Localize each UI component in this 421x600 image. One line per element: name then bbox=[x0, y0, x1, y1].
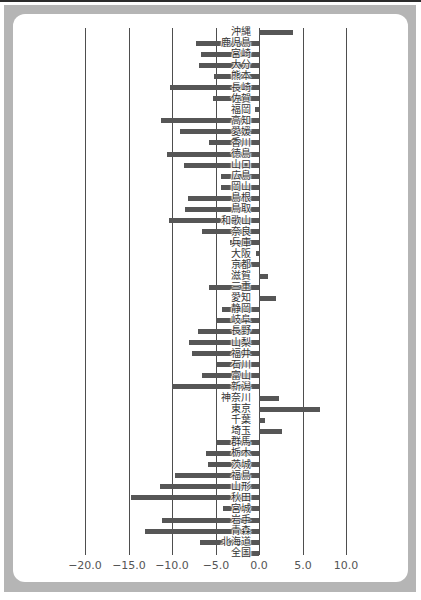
bar bbox=[259, 296, 276, 301]
bar bbox=[259, 274, 268, 279]
bar bbox=[259, 30, 293, 35]
gridline bbox=[346, 28, 347, 555]
bar bbox=[259, 407, 320, 412]
bar bbox=[259, 396, 279, 401]
x-tick-label: 5.0 bbox=[281, 559, 325, 573]
bar bbox=[259, 429, 282, 434]
x-tick-label: −10.0 bbox=[150, 559, 194, 573]
gridline bbox=[303, 28, 304, 555]
bar bbox=[259, 418, 265, 423]
gridline bbox=[172, 28, 173, 555]
x-tick-label: −15.0 bbox=[107, 559, 151, 573]
x-tick-label: 0.0 bbox=[237, 559, 281, 573]
x-tick-label: −20.0 bbox=[63, 559, 107, 573]
bar bbox=[256, 251, 259, 256]
gridline bbox=[85, 28, 86, 555]
gridline bbox=[129, 28, 130, 555]
bar-chart: −20.0−15.0−10.0−5.00.05.010.0沖縄鹿児島宮崎大分熊本… bbox=[0, 0, 421, 600]
gridline bbox=[259, 28, 260, 555]
x-tick-label: −5.0 bbox=[194, 559, 238, 573]
x-tick-label: 10.0 bbox=[324, 559, 368, 573]
bar bbox=[255, 107, 259, 112]
category-label: 全国 bbox=[231, 547, 251, 559]
